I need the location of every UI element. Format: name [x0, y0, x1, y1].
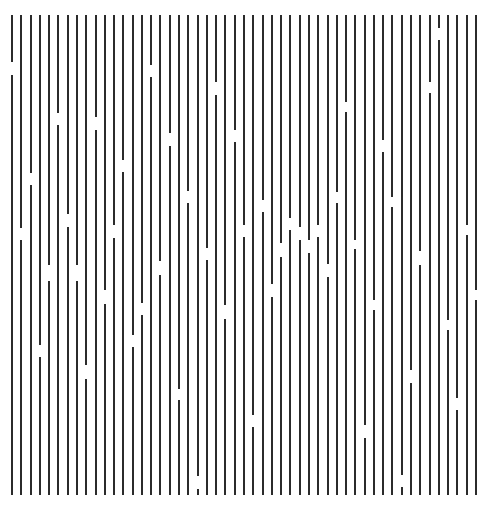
line-segment [85, 15, 87, 365]
line-segment [447, 330, 449, 495]
line-segment [364, 438, 366, 495]
line-segment [317, 15, 319, 225]
line-grating-stimulus [0, 0, 486, 511]
line-segment [410, 383, 412, 495]
line-segment [336, 203, 338, 495]
line-segment [85, 379, 87, 495]
line-segment [280, 15, 282, 243]
line-segment [76, 281, 78, 495]
line-segment [159, 275, 161, 495]
line-segment [410, 15, 412, 370]
line-segment [48, 281, 50, 495]
line-segment [336, 15, 338, 192]
line-segment [11, 15, 13, 62]
line-segment [327, 15, 329, 264]
line-segment [187, 203, 189, 495]
line-segment [391, 15, 393, 197]
line-segment [466, 15, 468, 225]
line-segment [289, 230, 291, 495]
line-segment [382, 15, 384, 140]
line-segment [382, 152, 384, 495]
line-segment [401, 15, 403, 475]
line-segment [132, 347, 134, 495]
line-segment [429, 15, 431, 82]
line-segment [113, 238, 115, 495]
line-segment [224, 15, 226, 305]
line-segment [159, 15, 161, 261]
line-segment [271, 15, 273, 284]
line-segment [262, 15, 264, 200]
line-segment [30, 15, 32, 173]
line-segment [178, 15, 180, 389]
line-segment [252, 15, 254, 415]
line-segment [364, 15, 366, 425]
line-segment [299, 240, 301, 495]
line-segment [95, 130, 97, 495]
line-segment [113, 15, 115, 225]
line-segment [345, 15, 347, 102]
line-segment [215, 15, 217, 82]
line-segment [215, 95, 217, 495]
line-segment [132, 15, 134, 335]
line-segment [169, 146, 171, 495]
line-segment [243, 15, 245, 225]
line-segment [141, 315, 143, 495]
line-segment [206, 15, 208, 248]
line-segment [475, 300, 477, 495]
line-segment [57, 125, 59, 495]
line-segment [67, 227, 69, 495]
line-segment [150, 15, 152, 65]
line-segment [308, 15, 310, 240]
line-segment [354, 249, 356, 495]
line-segment [104, 15, 106, 290]
line-segment [289, 15, 291, 218]
line-segment [95, 15, 97, 117]
line-segment [20, 15, 22, 228]
line-segment [419, 15, 421, 251]
line-segment [39, 15, 41, 345]
line-segment [280, 257, 282, 495]
line-segment [141, 15, 143, 303]
line-segment [169, 15, 171, 133]
line-segment [11, 75, 13, 495]
line-segment [391, 207, 393, 495]
line-segment [57, 15, 59, 113]
line-segment [345, 112, 347, 495]
line-segment [299, 15, 301, 227]
line-segment [466, 235, 468, 495]
line-segment [76, 15, 78, 265]
line-segment [197, 15, 199, 476]
line-segment [20, 240, 22, 495]
line-segment [150, 77, 152, 495]
line-segment [234, 15, 236, 130]
line-segment [438, 15, 440, 28]
line-segment [67, 15, 69, 214]
line-segment [308, 253, 310, 495]
line-segment [447, 15, 449, 320]
line-segment [122, 172, 124, 495]
line-segment [243, 237, 245, 495]
line-segment [317, 237, 319, 495]
line-segment [122, 15, 124, 160]
line-segment [206, 260, 208, 495]
line-segment [197, 489, 199, 495]
line-segment [401, 487, 403, 495]
line-segment [429, 93, 431, 495]
line-segment [252, 427, 254, 495]
line-segment [456, 410, 458, 495]
line-segment [187, 15, 189, 191]
line-segment [30, 185, 32, 495]
line-segment [456, 15, 458, 398]
line-segment [224, 319, 226, 495]
line-segment [39, 357, 41, 495]
line-segment [48, 15, 50, 265]
line-segment [373, 310, 375, 495]
line-segment [262, 212, 264, 495]
line-segment [104, 304, 106, 495]
line-segment [234, 142, 236, 495]
line-segment [178, 400, 180, 495]
line-segment [327, 277, 329, 495]
line-segment [475, 15, 477, 290]
line-segment [373, 15, 375, 300]
line-segment [438, 40, 440, 495]
